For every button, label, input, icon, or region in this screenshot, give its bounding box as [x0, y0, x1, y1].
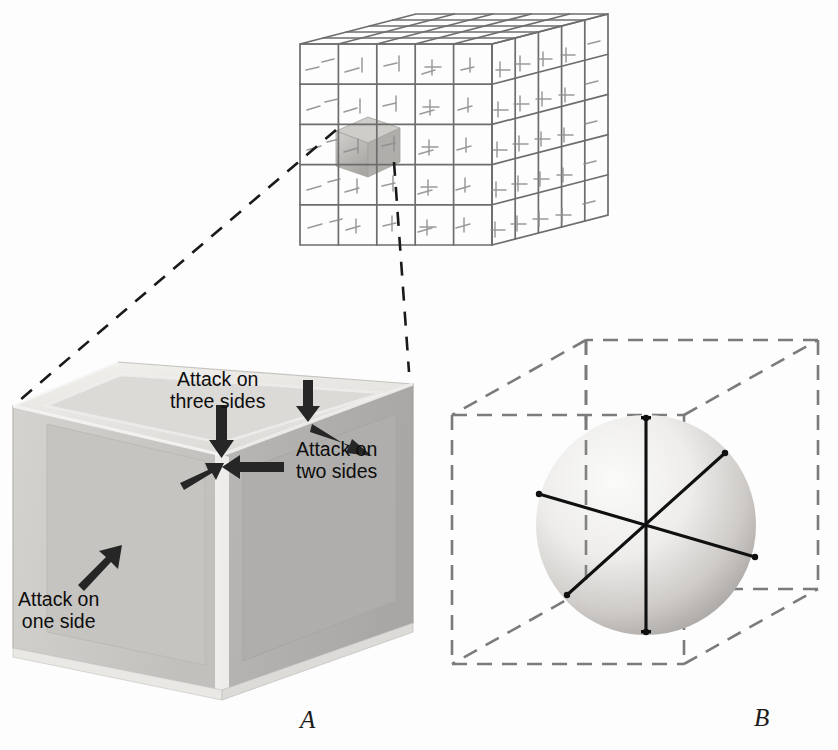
panel-a-cube — [13, 362, 413, 700]
figure-root — [0, 0, 838, 750]
leader-line-left — [13, 130, 336, 406]
callout-leader-lines — [13, 130, 409, 406]
annotation-attack-two-sides: Attack on two sides — [296, 438, 377, 482]
cube-edge-top-left — [452, 340, 586, 415]
panel-b — [452, 340, 818, 664]
lattice-cube — [300, 14, 608, 245]
cube-edge-top-right — [684, 340, 818, 415]
highlighted-lattice-cell — [336, 117, 400, 177]
annotation-attack-three-sides: Attack on three sides — [170, 368, 265, 412]
annotation-attack-one-side: Attack on one side — [18, 588, 99, 632]
leader-line-right — [394, 162, 409, 372]
panel-label-a: A — [300, 706, 315, 734]
panel-label-b: B — [754, 704, 769, 732]
cube-corner-bevel — [215, 452, 229, 692]
